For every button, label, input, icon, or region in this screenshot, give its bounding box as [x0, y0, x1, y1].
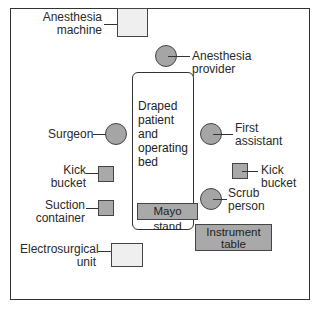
label-line: table	[196, 238, 271, 250]
label-line: bed	[138, 155, 188, 169]
operating-bed-label: Draped patient and operating bed	[138, 99, 188, 169]
suction-container-label: Suction container	[30, 199, 85, 225]
leader-line	[213, 134, 233, 135]
label-line: and	[138, 127, 188, 141]
anesthesia-machine-label: Anesthesia machine	[40, 11, 102, 37]
surgeon-label: Surgeon	[48, 128, 93, 141]
label-line: Instrument	[196, 226, 271, 238]
leader-line	[168, 56, 190, 57]
mayo-stand-label: Mayo stand	[153, 205, 181, 232]
label-line: patient	[138, 113, 188, 127]
anesthesia-machine	[117, 8, 148, 37]
kick-bucket-left-label: Kick bucket	[50, 164, 86, 190]
scrub-person-label: Scrub person	[228, 187, 265, 213]
suction-container	[98, 200, 114, 216]
mayo-stand: Mayo stand	[137, 203, 198, 220]
anesthesia-provider-label: Anesthesia provider	[192, 50, 251, 76]
surgeon-person	[105, 123, 127, 145]
label-line: provider	[192, 63, 251, 76]
electrosurgical-unit	[111, 243, 143, 267]
leader-line	[213, 199, 227, 200]
instrument-table: Instrument table	[195, 224, 272, 251]
label-line: container	[30, 212, 85, 225]
label-line: operating	[138, 141, 188, 155]
label-line: assistant	[235, 135, 282, 148]
label-line: person	[228, 200, 265, 213]
label-line: bucket	[50, 177, 86, 190]
kick-bucket-right-label: Kick bucket	[261, 164, 296, 190]
electrosurgical-unit-label: Electrosurgical unit	[20, 243, 96, 269]
first-assistant-label: First assistant	[235, 122, 282, 148]
label-line: bucket	[261, 177, 296, 190]
label-line: Draped	[138, 99, 188, 113]
label-line: machine	[40, 24, 102, 37]
leader-line	[242, 171, 258, 172]
kick-bucket-left	[98, 166, 114, 182]
label-line: unit	[20, 256, 96, 269]
